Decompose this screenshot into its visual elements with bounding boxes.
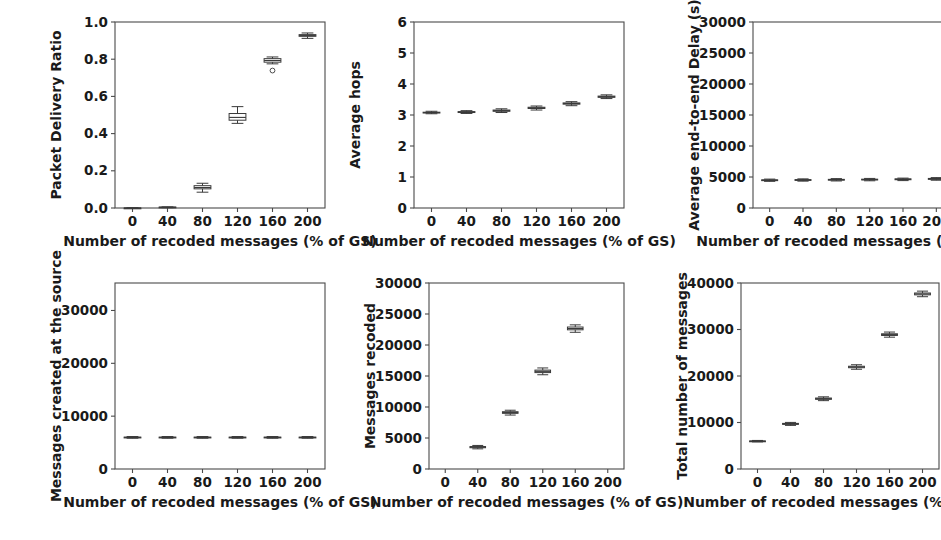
subplot-messages-created-at-the-source: 010000200003000004080120160200Number of … (0, 265, 314, 540)
axes-frame (753, 22, 941, 208)
box-plot-group (567, 325, 583, 332)
box-plot-group (229, 107, 246, 124)
y-tick-label: 4 (398, 76, 407, 92)
x-tick-label: 80 (814, 474, 833, 490)
x-tick-label: 0 (753, 474, 762, 490)
x-axis: 04080120160200 (128, 208, 322, 229)
y-tick-label: 1 (398, 169, 407, 185)
y-axis-label: Average end-to-end Delay (s) (686, 0, 702, 231)
y-tick-label: 15000 (375, 368, 422, 384)
x-tick-label: 80 (193, 213, 212, 229)
y-axis-label: Total number of messages (674, 272, 690, 480)
box-plot-group (159, 437, 176, 439)
x-axis-label: Number of recoded messages (% of GS) (696, 233, 941, 249)
box-plot-group (124, 208, 141, 209)
y-tick-label: 30000 (375, 275, 422, 291)
y-tick-label: 10000 (61, 408, 108, 424)
x-tick-label: 160 (557, 213, 585, 229)
y-tick-label: 40000 (687, 275, 734, 291)
box-plot-group (828, 179, 844, 181)
y-axis: 0100002000030000 (61, 302, 115, 477)
x-axis-label: Number of recoded messages (% of GS) (683, 494, 941, 510)
subplot-messages-recoded: 0500010000150002000025000300000408012016… (314, 265, 628, 540)
subplot-average-hops: 012345604080120160200Number of recoded m… (314, 0, 628, 265)
y-tick-label: 0.6 (84, 88, 108, 104)
x-tick-label: 120 (856, 213, 884, 229)
y-tick-label: 0 (725, 461, 734, 477)
y-axis: 050001000015000200002500030000 (375, 275, 429, 477)
x-tick-label: 160 (258, 213, 286, 229)
y-tick-label: 30000 (687, 321, 734, 337)
y-tick-label: 0.4 (84, 125, 108, 141)
y-axis-label: Messages recoded (362, 303, 378, 449)
x-tick-label: 120 (522, 213, 550, 229)
y-tick-label: 5000 (708, 169, 746, 185)
y-axis-label: Packet Delivery Ratio (48, 30, 64, 200)
axes-frame (741, 283, 939, 469)
y-tick-label: 0.0 (84, 200, 108, 216)
y-tick-label: 0.8 (84, 51, 108, 67)
box-plot-group (229, 437, 246, 439)
x-tick-label: 0 (441, 474, 450, 490)
box-plot-group (159, 207, 176, 208)
x-axis: 04080120160200 (753, 469, 937, 490)
subplot-average-end-to-end-delay: 0500010000150002000025000300000408012016… (628, 0, 941, 265)
x-tick-label: 160 (258, 474, 286, 490)
x-tick-label: 120 (223, 474, 251, 490)
y-tick-label: 20000 (375, 337, 422, 353)
box-plot-group (882, 332, 898, 337)
x-axis: 04080120160200 (128, 469, 322, 490)
box-plot-group (194, 183, 211, 192)
x-tick-label: 0 (128, 213, 137, 229)
y-tick-label: 20000 (699, 76, 746, 92)
y-tick-label: 2 (398, 138, 407, 154)
box-iqr (229, 114, 246, 121)
box-plot-group (915, 291, 931, 297)
box-plot-group (493, 109, 510, 113)
x-tick-label: 80 (827, 213, 846, 229)
y-tick-label: 0 (99, 461, 108, 477)
y-tick-label: 5 (398, 45, 407, 61)
box-plot-group (928, 178, 941, 181)
x-tick-label: 80 (193, 474, 212, 490)
y-tick-label: 1.0 (84, 14, 108, 30)
x-tick-label: 0 (427, 213, 436, 229)
y-tick-label: 25000 (375, 306, 422, 322)
box-plot-group (264, 57, 281, 73)
y-axis: 010000200003000040000 (687, 275, 741, 477)
box-plot-group (762, 179, 778, 181)
x-tick-label: 40 (794, 213, 813, 229)
box-plot-group (750, 440, 766, 441)
subplot-total-number-of-messages: 01000020000300004000004080120160200Numbe… (628, 265, 941, 540)
y-tick-label: 10000 (699, 138, 746, 154)
box-plot-group (528, 106, 545, 110)
box-plot-group (458, 111, 475, 114)
y-tick-label: 6 (398, 14, 407, 30)
y-tick-label: 10000 (375, 399, 422, 415)
axes-frame (115, 22, 325, 208)
x-tick-label: 80 (492, 213, 511, 229)
y-tick-label: 3 (398, 107, 407, 123)
x-axis: 04080120160200 (765, 208, 941, 229)
axes-frame (115, 283, 325, 469)
y-tick-label: 30000 (699, 14, 746, 30)
y-axis-label: Average hops (347, 61, 363, 169)
x-tick-label: 40 (158, 474, 177, 490)
axes-frame (429, 283, 624, 469)
x-axis: 04080120160200 (441, 469, 622, 490)
x-tick-label: 40 (457, 213, 476, 229)
y-tick-label: 0 (413, 461, 422, 477)
y-tick-label: 30000 (61, 302, 108, 318)
box-plot-group (862, 178, 878, 180)
box-plot-group (535, 368, 551, 375)
box-plot-group (194, 437, 211, 439)
box-plot-group (895, 178, 911, 180)
y-axis: 050001000015000200002500030000 (699, 14, 753, 216)
x-tick-label: 0 (128, 474, 137, 490)
x-tick-label: 40 (468, 474, 487, 490)
y-tick-label: 5000 (384, 430, 422, 446)
box-plot-group (783, 422, 799, 425)
y-tick-label: 10000 (687, 414, 734, 430)
box-plot-group (264, 437, 281, 439)
x-tick-label: 160 (875, 474, 903, 490)
